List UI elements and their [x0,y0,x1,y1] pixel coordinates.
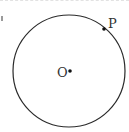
label-p: P [108,16,117,31]
point-p [102,27,106,31]
center-point-o [68,69,72,73]
circle-diagram: O P [0,0,129,132]
label-o: O [57,65,68,80]
